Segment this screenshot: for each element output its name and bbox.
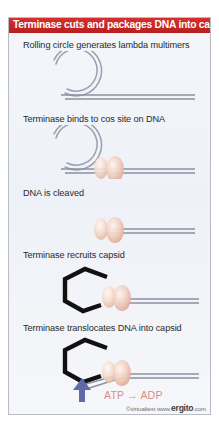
brand-tld: .com (193, 405, 206, 412)
step-2-label: Terminase binds to cos site on DNA (23, 114, 165, 124)
step-4-artwork (9, 261, 211, 323)
brand-name: ergito (171, 403, 193, 413)
step-1-label: Rolling circle generates lambda multimer… (23, 40, 189, 50)
figure-title: Terminase cuts and packages DNA into cap… (9, 20, 211, 30)
step-1-artwork (9, 51, 211, 103)
copyright-text: ©virtualtext www. (126, 405, 171, 412)
figure-root: Terminase cuts and packages DNA into cap… (0, 0, 219, 424)
figure-title-bar: Terminase cuts and packages DNA into cap… (9, 18, 210, 33)
step-3-artwork (9, 199, 211, 249)
diagram-panel: Terminase cuts and packages DNA into cap… (8, 17, 211, 415)
atp-adp-label: ATP → ADP (104, 389, 163, 401)
credit-line: ©virtualtext www.ergito.com (126, 403, 206, 413)
step-4-label: Terminase recruits capsid (23, 250, 125, 260)
step-2-artwork (9, 125, 211, 179)
step-5-label: Terminase translocates DNA into capsid (23, 323, 182, 333)
step-3-label: DNA is cleaved (23, 188, 84, 198)
